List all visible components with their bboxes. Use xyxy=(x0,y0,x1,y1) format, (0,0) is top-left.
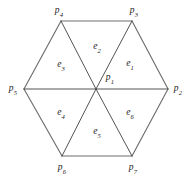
vertex-label-p4: p4 xyxy=(55,6,63,16)
vertex-label-p5: p5 xyxy=(9,84,17,94)
face-label-e1: e1 xyxy=(126,59,134,69)
face-label-e3: e3 xyxy=(57,60,65,70)
hexagon-triangulation-figure: p4 p3 p5 p2 p6 p7 p1 e1 e2 e3 e4 e5 e6 xyxy=(0,0,191,180)
vertex-label-p2: p2 xyxy=(174,84,182,94)
face-label-e2: e2 xyxy=(93,42,101,52)
face-label-e5: e5 xyxy=(93,127,101,137)
face-label-e4: e4 xyxy=(57,108,65,118)
vertex-label-p7: p7 xyxy=(129,163,137,173)
vertex-label-p3: p3 xyxy=(130,6,138,16)
vertex-label-p6: p6 xyxy=(58,163,66,173)
diagram-canvas xyxy=(0,0,191,180)
center-vertex-label-p1: p1 xyxy=(106,73,114,83)
face-label-e6: e6 xyxy=(126,108,134,118)
